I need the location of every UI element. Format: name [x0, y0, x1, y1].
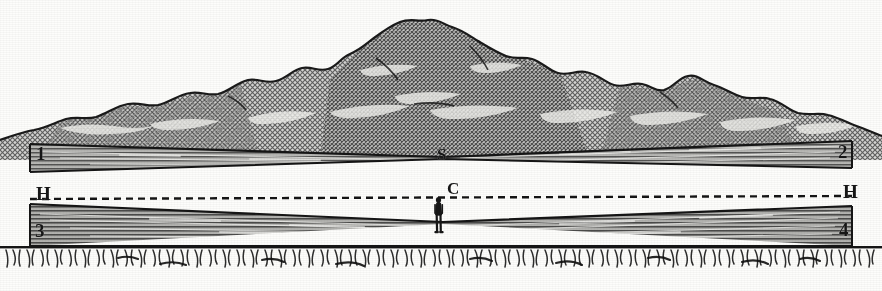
label-3: 3: [35, 221, 45, 240]
label-4: 4: [839, 220, 849, 239]
standing-human-figure: [431, 196, 447, 242]
grass-hatching: [0, 246, 882, 286]
label-h-right: H: [843, 182, 858, 201]
label-2: 2: [838, 142, 848, 161]
label-h-left: H: [36, 184, 51, 203]
label-c: C: [447, 180, 459, 197]
label-s: S: [437, 146, 446, 163]
engraving-figure: 1 2 3 4 H H S C: [0, 0, 882, 291]
label-1: 1: [36, 144, 46, 163]
